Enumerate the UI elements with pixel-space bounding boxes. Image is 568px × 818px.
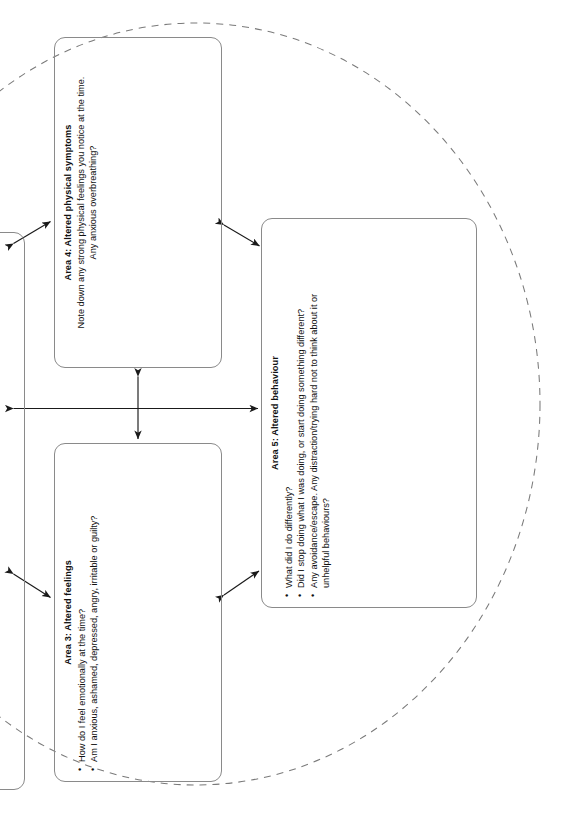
list-item: Am I anxious, ashamed, depressed, angry,… (88, 454, 100, 771)
box-area-4-subtitle-line-2: Any anxious overbreathing? (88, 48, 100, 357)
list-item: What did I do differently? (283, 229, 295, 597)
partial-box-left-edge (0, 232, 25, 790)
box-area-3-title: Area 3: Altered feelings (63, 454, 75, 771)
box-area-4-altered-physical-symptoms: Area 4: Altered physical symptoms Note d… (54, 37, 222, 368)
worksheet-canvas: Area 4: Altered physical symptoms Note d… (0, 0, 568, 818)
box-area-3-bullet-list: How do I feel emotionally at the time? A… (76, 454, 101, 771)
box-area-3-altered-feelings: Area 3: Altered feelings How do I feel e… (54, 443, 222, 782)
box-area-5-altered-behaviour: Area 5: Altered behaviour What did I do … (261, 218, 477, 608)
arrow-area3-to-area5 (224, 571, 259, 595)
arrow-area4-to-area5 (224, 225, 260, 246)
box-area-4-title: Area 4: Altered physical symptoms (63, 48, 75, 357)
box-area-5-title: Area 5: Altered behaviour (270, 229, 282, 597)
list-item: Any avoidance/escape. Any distraction/tr… (308, 229, 332, 597)
list-item-text: Any avoidance/escape. Any distraction/tr… (309, 294, 319, 588)
box-area-5-bullet-list: What did I do differently? Did I stop do… (283, 229, 333, 597)
list-item: Did I stop doing what I was doing, or st… (295, 229, 307, 597)
list-item: How do I feel emotionally at the time? (76, 454, 88, 771)
list-item-continuation: unhelpful behaviours? (320, 229, 332, 588)
box-area-4-subtitle-line-1: Note down any strong physical feelings y… (76, 48, 88, 357)
